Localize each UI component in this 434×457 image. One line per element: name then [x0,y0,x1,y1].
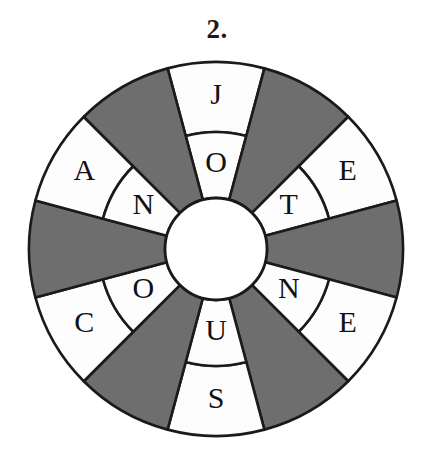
wheel-letter-outer: E [338,153,356,186]
wheel-letter-inner: N [132,187,154,220]
wheel-letter-outer: S [208,381,225,414]
letter-wheel-diagram: JOETENSUCOAN [0,0,434,457]
wheel-letter-inner: O [132,271,154,304]
wheel-letter-inner: U [205,313,227,346]
wheel-letter-outer: C [74,305,94,338]
wheel-letter-inner: T [280,187,298,220]
wheel-letter-inner: O [205,145,227,178]
wheel-letter-outer: A [74,153,96,186]
wheel-letter-inner: N [278,271,300,304]
letter-wheel-svg: JOETENSUCOAN [0,0,434,457]
wheel-letter-outer: J [210,77,222,110]
wheel-letter-outer: E [338,305,356,338]
wheel-hub [165,198,267,300]
